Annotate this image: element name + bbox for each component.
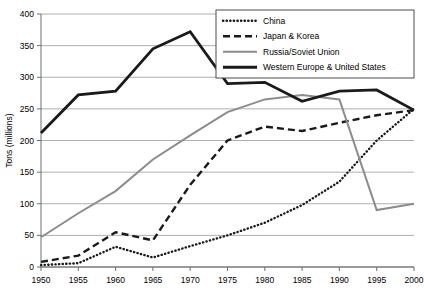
x-tick-label: 1955 (69, 275, 88, 285)
legend-item-label: Russia/Soviet Union (263, 47, 340, 57)
y-tick-label: 50 (25, 230, 35, 240)
legend-item-label: China (263, 16, 285, 26)
y-tick-label: 100 (20, 199, 34, 209)
y-axis-title: Tons (millions) (4, 113, 14, 167)
x-tick-label: 1970 (181, 275, 200, 285)
x-tick-label: 1985 (293, 275, 312, 285)
chart-canvas: 050100150200250300350400 195019551960196… (0, 0, 424, 302)
y-tick-label: 300 (20, 72, 34, 82)
line-chart: 050100150200250300350400 195019551960196… (0, 0, 424, 302)
x-tick-label: 1965 (143, 275, 162, 285)
y-tick-label: 250 (20, 104, 34, 114)
legend-item-label: Western Europe & United States (263, 62, 386, 72)
x-tick-label: 1950 (32, 275, 51, 285)
legend-item-label: Japan & Korea (263, 31, 320, 41)
x-tick-label: 2000 (405, 275, 424, 285)
x-tick-label: 1995 (367, 275, 386, 285)
y-tick-label: 350 (20, 41, 34, 51)
y-tick-label: 150 (20, 167, 34, 177)
y-tick-label: 200 (20, 136, 34, 146)
y-tick-label: 0 (29, 262, 34, 272)
x-tick-label: 1960 (106, 275, 125, 285)
x-tick-label: 1975 (218, 275, 237, 285)
x-tick-label: 1990 (330, 275, 349, 285)
y-tick-label: 400 (20, 9, 34, 19)
chart-legend: ChinaJapan & KoreaRussia/Soviet UnionWes… (216, 10, 414, 78)
x-tick-label: 1980 (255, 275, 274, 285)
